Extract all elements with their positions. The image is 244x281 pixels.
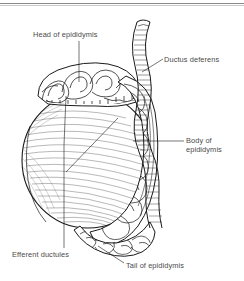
label-body-of-epididymis-line1: Body of: [186, 136, 212, 145]
label-ductus-deferens: Ductus deferens: [164, 55, 219, 64]
label-head-of-epididymis: Head of epididymis: [33, 30, 98, 39]
anatomical-figure: Head of epididymis Ductus deferens Body …: [0, 0, 244, 281]
leader-ductus: [142, 59, 163, 72]
label-efferent-ductules: Efferent ductules: [12, 250, 69, 259]
label-tail-of-epididymis: Tail of epididymis: [126, 261, 184, 270]
label-body-of-epididymis-line2: epididymis: [186, 145, 222, 154]
